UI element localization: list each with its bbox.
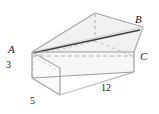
geometry-figure: A B C 3 5 12 — [0, 0, 159, 114]
vertex-label-c: C — [140, 51, 147, 62]
vertex-label-b: B — [135, 14, 142, 25]
dimension-label-height: 3 — [6, 60, 11, 70]
vertex-label-a: A — [8, 44, 15, 55]
dimension-label-depth: 5 — [30, 96, 35, 106]
dimension-label-length: 12 — [101, 83, 111, 93]
